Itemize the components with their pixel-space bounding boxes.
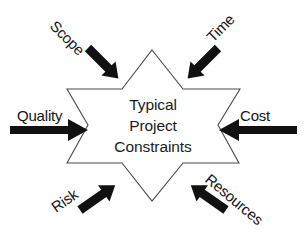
label-quality: Quality [17, 107, 63, 124]
arrow-scope [81, 41, 126, 86]
arrow-time [181, 41, 226, 86]
label-cost: Cost [240, 107, 271, 124]
label-risk: Risk [48, 185, 82, 216]
diagram-canvas: Typical Project Constraints Scope Time Q… [0, 0, 306, 245]
label-time: Time [203, 10, 238, 45]
center-text-line-2: Project [129, 117, 177, 134]
constraint-diagram: Typical Project Constraints Scope Time Q… [0, 0, 306, 245]
label-scope: Scope [47, 17, 88, 58]
arrow-risk [74, 177, 121, 218]
center-text-line-1: Typical [129, 96, 177, 113]
center-text-line-3: Constraints [114, 138, 192, 155]
